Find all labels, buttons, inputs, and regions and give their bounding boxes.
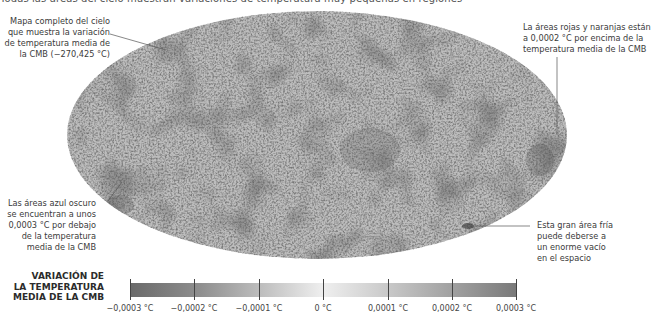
colorbar-tick xyxy=(130,279,131,300)
legend-title-line: LA TEMPERATURA xyxy=(0,282,104,293)
annotation-line: puede deberse a xyxy=(537,231,647,242)
annotation-line: temperatura media de la CMB xyxy=(523,44,655,55)
legend-title: VARIACIÓN DE LA TEMPERATURA MEDIA DE LA … xyxy=(0,271,104,303)
annotation-line: La áreas rojas y naranjas están xyxy=(523,22,655,33)
annotation-line: Mapa completo del cielo xyxy=(2,16,110,27)
annotation-line: un enorme vacío xyxy=(537,242,647,253)
tick-label: −0,0002 °C xyxy=(171,304,218,313)
colorbar-tick xyxy=(516,279,517,300)
legend-title-line: MEDIA DE LA CMB xyxy=(0,292,104,303)
annotation-line: que muestra la variación xyxy=(2,27,110,38)
annotation-cold-areas: Las áreas azul oscuro se encuentran a un… xyxy=(0,198,96,253)
annotation-line: Las áreas azul oscuro xyxy=(0,198,96,209)
annotation-line: la CMB (−270,425 °C) xyxy=(2,49,110,60)
annotation-line: en el espacio xyxy=(537,253,647,264)
warm-region xyxy=(526,144,554,176)
cold-region xyxy=(340,128,400,172)
annotation-line: media de la CMB xyxy=(0,242,96,253)
colorbar-tick xyxy=(259,279,260,300)
annotation-line: Esta gran área fría xyxy=(537,220,647,231)
annotation-line: de temperatura media de xyxy=(2,38,110,49)
tick-label: −0,0003 °C xyxy=(107,304,154,313)
tick-label: 0,0003 °C xyxy=(496,304,536,313)
tick-label: −0,0001 °C xyxy=(236,304,283,313)
colorbar-tick xyxy=(194,279,195,300)
annotation-warm-areas: La áreas rojas y naranjas están a 0,0002… xyxy=(523,22,655,55)
legend-title-line: VARIACIÓN DE xyxy=(0,271,104,282)
annotation-line: 0,0003 °C por debajo xyxy=(0,220,96,231)
annotation-line: a 0,0002 °C por encima de la xyxy=(523,33,655,44)
annotation-line: se encuentran a unos xyxy=(0,209,96,220)
tick-label: 0,0001 °C xyxy=(368,304,408,313)
annotation-full-sky: Mapa completo del cielo que muestra la v… xyxy=(2,16,110,60)
annotation-cold-spot: Esta gran área fría puede deberse a un e… xyxy=(537,220,647,264)
sky-ellipse xyxy=(60,8,575,263)
colorbar-tick xyxy=(388,279,389,300)
tick-label: 0 °C xyxy=(314,304,331,313)
colorbar-tick xyxy=(323,279,324,300)
colorbar-tick xyxy=(452,279,453,300)
tick-label: 0,0002 °C xyxy=(432,304,472,313)
annotation-line: de la temperatura xyxy=(0,231,96,242)
